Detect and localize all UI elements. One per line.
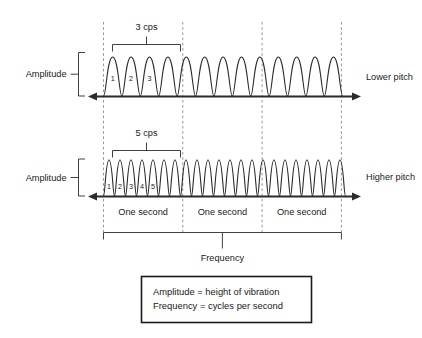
top-amplitude-label: Amplitude: [26, 69, 67, 79]
legend-line-2: Frequency = cycles per second: [153, 300, 283, 311]
bottom-cycle-numbers: 1 2 3 4 5: [107, 182, 155, 191]
bottom-cycle-number-2: 2: [118, 182, 122, 191]
bottom-cps-bracket-shape: [113, 151, 181, 158]
bottom-axis-arrow-left: [88, 193, 97, 201]
top-amplitude-bracket-shape: [79, 53, 86, 97]
top-axis-arrow-right: [352, 93, 361, 101]
bottom-cycle-number-4: 4: [140, 182, 144, 191]
sound-wave-diagram: 3 cps Amplitude 1 2 3 Lower pitch: [0, 0, 422, 338]
top-cycle-number-2: 2: [129, 74, 133, 83]
top-cps-label: 3 cps: [136, 22, 158, 32]
bottom-amplitude-label: Amplitude: [26, 173, 67, 183]
legend-line-1: Amplitude = height of vibration: [153, 286, 279, 297]
bottom-axis: [88, 193, 361, 201]
second-labels: One second One second One second: [118, 207, 326, 217]
bottom-amplitude-bracket: [71, 159, 86, 196]
top-waveform: [104, 57, 343, 96]
bottom-cycle-number-3: 3: [129, 182, 133, 191]
bottom-amplitude-bracket-shape: [79, 159, 86, 196]
second-label-1: One second: [198, 207, 248, 217]
lower-pitch-label: Lower pitch: [366, 72, 413, 82]
frequency-bracket: [104, 233, 342, 249]
top-axis: [88, 93, 361, 101]
bottom-cycle-number-5: 5: [151, 182, 155, 191]
top-cps-bracket: [113, 37, 181, 52]
frequency-label: Frequency: [201, 253, 245, 263]
top-axis-arrow-left: [88, 93, 97, 101]
bottom-axis-arrow-right: [352, 193, 361, 201]
second-label-0: One second: [118, 207, 168, 217]
top-cycle-number-3: 3: [148, 74, 152, 83]
top-cycle-numbers: 1 2 3: [111, 74, 152, 83]
top-amplitude-bracket: [71, 53, 86, 97]
second-label-2: One second: [277, 207, 327, 217]
bottom-cycle-number-1: 1: [107, 182, 111, 191]
top-wave-path: [104, 57, 343, 96]
second-divider-lines: [104, 22, 342, 232]
bottom-cps-bracket: [113, 143, 181, 158]
top-cps-bracket-shape: [113, 45, 181, 52]
bottom-cps-label: 5 cps: [136, 128, 158, 138]
higher-pitch-label: Higher pitch: [366, 172, 415, 182]
top-cycle-number-1: 1: [111, 74, 115, 83]
diagram-canvas: 3 cps Amplitude 1 2 3 Lower pitch: [0, 0, 422, 338]
